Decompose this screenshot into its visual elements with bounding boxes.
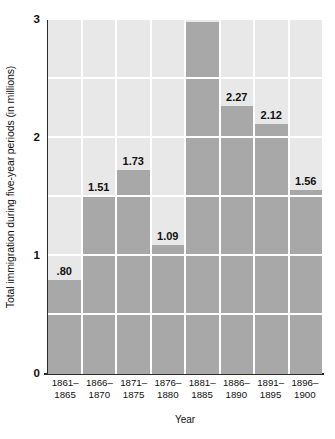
bar[interactable] — [290, 190, 323, 374]
bar-slot: 1.56 — [290, 20, 323, 374]
bar-value-label: 2.12 — [255, 110, 288, 121]
x-axis-tick-line2: 1870 — [82, 389, 116, 401]
x-axis-tick: 1871–1875 — [117, 377, 151, 411]
bar-value-label: 2.27 — [221, 92, 254, 103]
gridline — [48, 136, 322, 138]
y-axis-tick-0: 0 — [18, 368, 40, 380]
x-axis-tick: 1896–1900 — [288, 377, 322, 411]
bar-slot: 1.09 — [152, 20, 187, 374]
x-axis-tick: 1891–1895 — [254, 377, 288, 411]
x-axis-tick-line2: 1885 — [185, 389, 219, 401]
bar-slot: 2.27 — [221, 20, 256, 374]
bar[interactable] — [83, 196, 116, 374]
y-axis-title-text: Total immigration during five-year perio… — [4, 66, 16, 308]
bar[interactable] — [255, 124, 288, 374]
gridline — [48, 254, 322, 256]
x-axis-tick-line1: 1861– — [52, 377, 79, 388]
y-axis-title: Total immigration during five-year perio… — [0, 0, 20, 374]
bar-slot: 2.98 — [186, 20, 221, 374]
x-axis-title: Year — [48, 414, 322, 425]
bars-container: .801.511.731.092.982.272.121.56 — [48, 20, 322, 374]
x-axis-tick-line2: 1895 — [254, 389, 288, 401]
x-axis-tick-line2: 1900 — [288, 389, 322, 401]
x-axis-tick-line2: 1880 — [151, 389, 185, 401]
x-axis-tick: 1876–1880 — [151, 377, 185, 411]
x-axis-tick-line1: 1871– — [120, 377, 147, 388]
bar-value-label: 1.56 — [290, 176, 323, 187]
x-axis-tick: 1886–1890 — [219, 377, 253, 411]
bar-value-label: .80 — [48, 266, 81, 277]
bar[interactable] — [152, 245, 185, 374]
x-axis-tick-line1: 1891– — [257, 377, 284, 388]
bar-value-label: 1.51 — [83, 182, 116, 193]
x-axis-tick-line1: 1876– — [154, 377, 181, 388]
x-axis-tick-labels: 1861–18651866–18701871–18751876–18801881… — [48, 377, 322, 411]
gridline — [48, 77, 322, 79]
bar-slot: 2.12 — [255, 20, 290, 374]
bar[interactable] — [48, 280, 81, 374]
x-axis-tick-line2: 1865 — [48, 389, 82, 401]
x-axis-tick-line1: 1886– — [223, 377, 250, 388]
x-axis-tick: 1866–1870 — [82, 377, 116, 411]
bar-slot: .80 — [48, 20, 83, 374]
bar[interactable] — [221, 106, 254, 374]
x-axis-tick-line2: 1890 — [219, 389, 253, 401]
x-axis-tick-line1: 1881– — [189, 377, 216, 388]
x-axis-tick-line1: 1866– — [86, 377, 113, 388]
gridline — [48, 313, 322, 315]
bar-value-label: 1.73 — [117, 156, 150, 167]
gridline — [48, 195, 322, 197]
y-axis-tick-3: 3 — [18, 14, 40, 26]
y-axis-tick-1: 1 — [18, 250, 40, 262]
x-axis-tick-line2: 1875 — [117, 389, 151, 401]
bar[interactable] — [117, 170, 150, 374]
x-axis-tick: 1861–1865 — [48, 377, 82, 411]
plot-area: .801.511.731.092.982.272.121.56 — [48, 20, 322, 374]
bar-slot: 1.51 — [83, 20, 118, 374]
y-axis-tick-2: 2 — [18, 132, 40, 144]
x-axis-tick-line1: 1896– — [291, 377, 318, 388]
bar-slot: 1.73 — [117, 20, 152, 374]
bar[interactable] — [186, 22, 219, 374]
bar-value-label: 1.09 — [152, 231, 185, 242]
x-axis-tick: 1881–1885 — [185, 377, 219, 411]
bar-chart: Total immigration during five-year perio… — [0, 0, 335, 439]
